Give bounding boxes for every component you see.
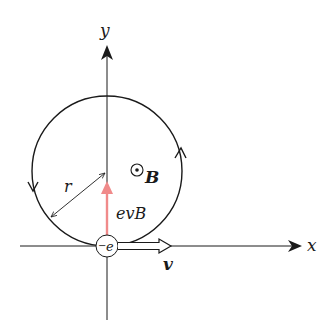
x-axis-label: x bbox=[307, 235, 317, 255]
force-arrowhead-icon bbox=[101, 181, 113, 194]
magnetic-field-label: B bbox=[144, 167, 159, 187]
y-axis-label: y bbox=[99, 20, 110, 40]
electron-label: e bbox=[106, 239, 114, 254]
radius-label: r bbox=[64, 177, 73, 196]
magnetic-field-dot bbox=[135, 168, 139, 172]
force-label: evB bbox=[116, 204, 147, 223]
velocity-arrow bbox=[118, 239, 171, 253]
diagram-canvas: x y r B evB − e v bbox=[0, 0, 329, 333]
velocity-label: v bbox=[163, 254, 174, 274]
radius-line bbox=[51, 173, 105, 217]
